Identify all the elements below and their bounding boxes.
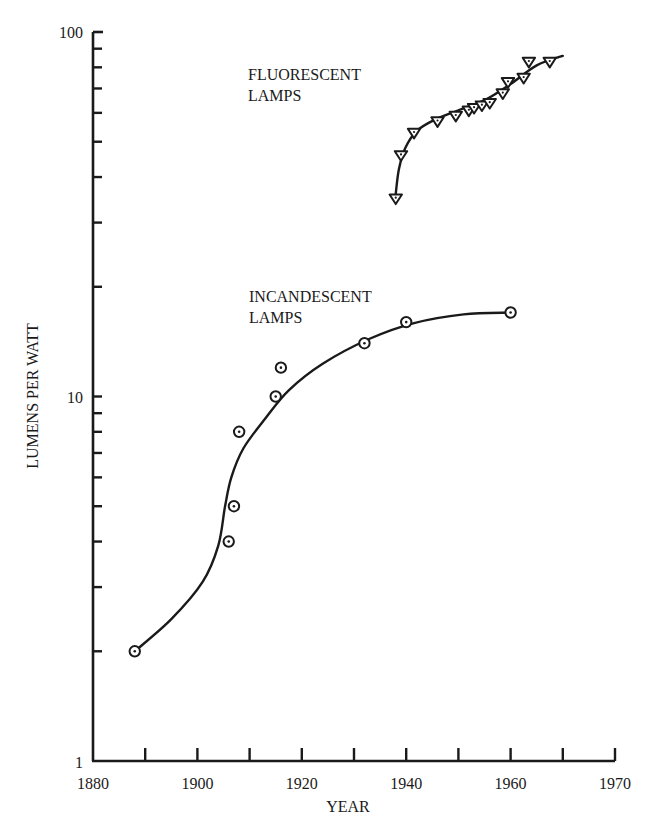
- triangle-down-marker-icon: [395, 151, 407, 161]
- x-axis-title: YEAR: [326, 798, 370, 815]
- y-tick-label: 1: [75, 754, 83, 771]
- incandescent-data-point: [271, 391, 281, 401]
- axes: 110100188019001920194019601970: [59, 24, 631, 792]
- chart: 110100188019001920194019601970 FLUORESCE…: [0, 0, 656, 830]
- fluorescent-data-point: [450, 112, 462, 122]
- triangle-down-marker-icon: [408, 129, 420, 139]
- incandescent-data-point: [401, 317, 411, 327]
- x-tick-label: 1900: [181, 775, 213, 792]
- incandescent-data-point: [229, 501, 239, 511]
- fluorescent-data-point: [390, 194, 402, 204]
- curves: [135, 56, 563, 651]
- incandescent-data-point: [224, 536, 234, 546]
- x-tick-label: 1880: [77, 775, 109, 792]
- fluorescent-data-point: [408, 129, 420, 139]
- x-tick-label: 1960: [495, 775, 527, 792]
- incandescent-data-point: [359, 338, 369, 348]
- fluorescent-label-line2: LAMPS: [248, 87, 301, 104]
- incandescent-label-line2: LAMPS: [249, 309, 302, 326]
- y-tick-label: 10: [67, 389, 83, 406]
- triangle-down-marker-icon: [450, 112, 462, 122]
- data-markers: [130, 58, 556, 657]
- triangle-down-marker-icon: [523, 58, 535, 68]
- fluorescent-data-point: [523, 58, 535, 68]
- x-tick-label: 1970: [599, 775, 631, 792]
- incandescent-data-point: [276, 362, 286, 372]
- incandescent-data-point: [505, 307, 515, 317]
- x-tick-label: 1920: [286, 775, 318, 792]
- fluorescent-trend-curve: [396, 56, 563, 194]
- y-tick-label: 100: [59, 24, 83, 41]
- x-tick-label: 1940: [390, 775, 422, 792]
- fluorescent-data-point: [431, 117, 443, 127]
- y-axis-title: LUMENS PER WATT: [24, 323, 41, 469]
- triangle-down-marker-icon: [390, 194, 402, 204]
- triangle-down-marker-icon: [497, 89, 509, 99]
- labels: FLUORESCENT LAMPS INCANDESCENT LAMPS YEA…: [24, 66, 372, 815]
- incandescent-trend-curve: [135, 313, 511, 652]
- fluorescent-data-point: [395, 151, 407, 161]
- incandescent-data-point: [234, 427, 244, 437]
- incandescent-label-line1: INCANDESCENT: [249, 288, 372, 305]
- incandescent-data-point: [130, 646, 140, 656]
- triangle-down-marker-icon: [431, 117, 443, 127]
- fluorescent-data-point: [497, 89, 509, 99]
- fluorescent-label-line1: FLUORESCENT: [248, 66, 361, 83]
